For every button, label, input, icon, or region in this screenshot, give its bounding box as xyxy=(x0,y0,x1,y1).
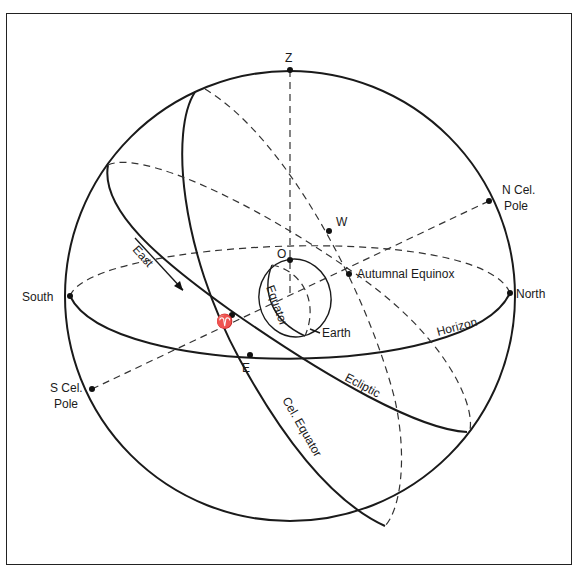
s-cel-pole-point xyxy=(89,386,95,392)
label-s-cel-pole-1: S Cel. xyxy=(50,381,83,395)
label-south: South xyxy=(22,290,53,304)
observer-point xyxy=(287,257,293,263)
label-zenith: Z xyxy=(285,51,292,65)
north-point xyxy=(507,290,513,296)
label-autumnal-equinox: Autumnal Equinox xyxy=(357,267,454,281)
south-point xyxy=(67,293,73,299)
celestial-sphere-diagram: Z O W Autumnal Equinox North South N Cel… xyxy=(0,0,578,568)
label-vernal-equinox: ♈ xyxy=(216,313,233,330)
earth-arrow xyxy=(310,329,320,333)
label-observer: O xyxy=(277,247,286,261)
label-earth: Earth xyxy=(322,326,351,340)
cel-equator-back xyxy=(205,89,402,526)
label-north: North xyxy=(516,287,545,301)
celestial-sphere-outline xyxy=(65,71,515,521)
autumnal-equinox-point xyxy=(346,271,352,277)
label-s-cel-pole-2: Pole xyxy=(54,397,78,411)
west-point xyxy=(326,228,332,234)
n-cel-pole-point xyxy=(486,198,492,204)
east-point xyxy=(247,352,253,358)
label-horizon: Horizon xyxy=(435,315,479,339)
label-west: W xyxy=(336,215,348,229)
label-n-cel-pole-2: Pole xyxy=(504,199,528,213)
label-n-cel-pole-1: N Cel. xyxy=(502,183,535,197)
label-cel-equator: Cel. Equator xyxy=(279,395,324,460)
label-east-point: E xyxy=(242,361,250,375)
ecliptic-front xyxy=(107,165,467,432)
label-east-arrow: East xyxy=(130,243,157,271)
zenith-point xyxy=(287,67,293,73)
label-ecliptic: Ecliptic xyxy=(343,370,383,400)
